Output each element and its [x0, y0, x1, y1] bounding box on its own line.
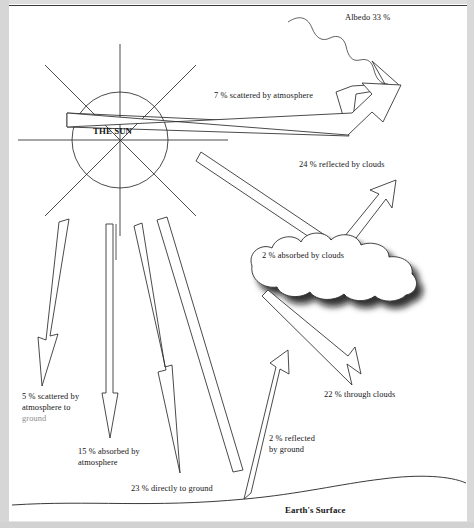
label-earth-surface: Earth's Surface — [285, 505, 345, 516]
label-reflected-by-ground-line2: by ground — [269, 444, 304, 455]
albedo-brace — [288, 18, 388, 84]
arrow-scattered-to-ground — [38, 219, 69, 386]
label-scattered-by-atmosphere: 7 % scattered by atmosphere — [214, 90, 313, 101]
earth-surface-line — [12, 476, 466, 505]
label-absorbed-by-clouds: 2 % absorbed by clouds — [262, 250, 344, 261]
sun-glyph — [18, 44, 228, 236]
arrow-reflected-by-ground — [244, 350, 289, 499]
label-scattered-to-ground-line3: ground — [22, 413, 46, 424]
label-scattered-to-ground-line2: atmosphere to — [22, 402, 71, 413]
label-directly-to-ground: 23 % directly to ground — [131, 483, 213, 494]
label-albedo: Albedo 33 % — [345, 12, 390, 23]
document-page: Albedo 33 % THE SUN 7 % scattered by atm… — [0, 0, 474, 528]
label-through-clouds: 22 % through clouds — [324, 389, 395, 400]
label-absorbed-by-atmosphere-line2: atmosphere — [78, 457, 118, 468]
label-absorbed-by-atmosphere-line1: 15 % absorbed by — [78, 446, 140, 457]
diagram-canvas — [0, 0, 474, 528]
label-reflected-by-ground-line1: 2 % reflected — [269, 433, 315, 444]
arrow-absorbed-by-atmosphere — [102, 224, 118, 438]
label-the-sun: THE SUN — [93, 126, 132, 137]
label-reflected-by-clouds: 24 % reflected by clouds — [299, 159, 385, 170]
cloud-shape — [251, 233, 417, 301]
label-scattered-to-ground-line1: 5 % scattered by — [22, 391, 79, 402]
arrow-incoming-right — [157, 217, 243, 472]
